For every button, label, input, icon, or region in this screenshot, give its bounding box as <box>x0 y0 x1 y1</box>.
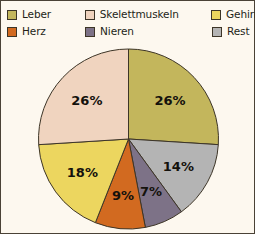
legend-row: Herz Nieren Rest <box>4 23 253 40</box>
legend-label: Gehirn <box>226 9 255 20</box>
pie-svg: 26%14%7%9%18%26% <box>1 45 255 234</box>
legend-swatch-icon <box>7 27 17 37</box>
legend-item-leber[interactable]: Leber <box>4 6 85 23</box>
legend-item-herz[interactable]: Herz <box>4 23 85 40</box>
legend-swatch-icon <box>85 10 95 20</box>
chart-legend: Leber Skelettmuskeln Gehirn Herz Nieren <box>1 1 255 45</box>
legend-swatch-icon <box>85 27 95 37</box>
legend-swatch-icon <box>7 10 17 20</box>
pie-chart-figure: Leber Skelettmuskeln Gehirn Herz Nieren <box>0 0 255 234</box>
pie-slice-value-label: 26% <box>155 93 186 108</box>
legend-item-skelettmuskeln[interactable]: Skelettmuskeln <box>85 6 211 23</box>
legend-item-gehirn[interactable]: Gehirn <box>211 6 253 23</box>
pie-slice-value-label: 7% <box>140 184 162 199</box>
pie-slice-value-label: 26% <box>71 93 102 108</box>
legend-label: Herz <box>22 26 46 37</box>
pie-slice-value-label: 18% <box>67 165 98 180</box>
legend-row: Leber Skelettmuskeln Gehirn <box>4 6 253 23</box>
legend-label: Leber <box>22 9 51 20</box>
legend-swatch-icon <box>212 27 222 37</box>
legend-label: Rest <box>227 26 249 37</box>
pie-slice-value-label: 14% <box>163 159 194 174</box>
legend-item-nieren[interactable]: Nieren <box>85 23 212 40</box>
legend-swatch-icon <box>211 10 221 20</box>
pie-plot-area: 26%14%7%9%18%26% <box>1 45 255 234</box>
legend-label: Nieren <box>100 26 134 37</box>
legend-item-rest[interactable]: Rest <box>212 23 253 40</box>
legend-label: Skelettmuskeln <box>100 9 179 20</box>
pie-slice-value-label: 9% <box>112 188 134 203</box>
